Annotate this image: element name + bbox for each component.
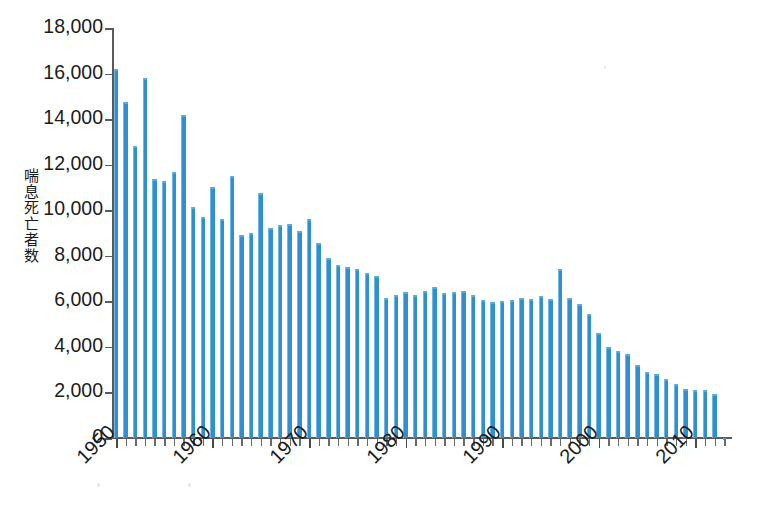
x-tick-mark-major [309, 439, 311, 448]
x-tick-mark-minor [338, 439, 339, 446]
x-tick-mark-minor [154, 439, 155, 446]
bar-cap [317, 243, 320, 245]
scan-artifact [604, 66, 606, 69]
bar [268, 228, 272, 438]
x-tick-mark-major [502, 439, 504, 448]
bar-cap [530, 299, 533, 301]
x-tick-mark-minor [328, 439, 329, 446]
bar-cap [221, 219, 224, 221]
bar [654, 374, 658, 438]
x-tick-mark-minor [135, 439, 136, 446]
bar [384, 298, 388, 438]
bar-cap [115, 69, 118, 71]
y-tick-mark [105, 74, 112, 76]
bar-cap [646, 372, 649, 374]
bar [703, 390, 707, 438]
bar-cap [231, 176, 234, 178]
bar-cap [540, 296, 543, 298]
x-tick-mark-minor [618, 439, 619, 446]
bar-cap [259, 193, 262, 195]
y-tick-label: 12,000 [43, 152, 103, 175]
bar-cap [375, 276, 378, 278]
bar [345, 267, 349, 438]
bar-cap [511, 300, 514, 302]
bar-cap [366, 273, 369, 275]
bar [481, 300, 485, 438]
bar [133, 146, 137, 438]
x-tick-mark-minor [715, 439, 716, 446]
x-tick-mark-minor [222, 439, 223, 446]
bar [567, 298, 571, 438]
bar-cap [626, 354, 629, 356]
bar [587, 314, 591, 438]
bar [645, 372, 649, 438]
scan-artifact [97, 483, 100, 487]
bar [635, 365, 639, 438]
x-tick-mark-minor [521, 439, 522, 446]
bar [374, 276, 378, 438]
x-tick-mark-minor [232, 439, 233, 446]
x-tick-mark-minor [637, 439, 638, 446]
bar-cap [713, 394, 716, 396]
x-tick-mark-minor [512, 439, 513, 446]
bar-cap [337, 265, 340, 267]
bar-cap [288, 224, 291, 226]
x-tick-mark-minor [425, 439, 426, 446]
bar [548, 299, 552, 438]
bar-cap [520, 298, 523, 300]
bar-cap [549, 299, 552, 301]
x-tick-mark-minor [541, 439, 542, 446]
bar [432, 287, 436, 438]
bar-cap [491, 302, 494, 304]
bar [172, 172, 176, 439]
bar-cap [568, 298, 571, 300]
bar [152, 179, 156, 438]
bar-cap [414, 295, 417, 297]
bar-cap [501, 301, 504, 303]
x-tick-mark-minor [435, 439, 436, 446]
bar-cap [453, 292, 456, 294]
bar [712, 394, 716, 438]
y-tick-label: 8,000 [54, 243, 103, 266]
bar [258, 193, 262, 438]
bar-cap [346, 267, 349, 269]
bar [596, 333, 600, 438]
x-tick-mark-minor [444, 439, 445, 446]
bar [577, 304, 581, 438]
bar-cap [472, 295, 475, 297]
x-tick-mark-minor [164, 439, 165, 446]
x-tick-mark-minor [145, 439, 146, 446]
x-tick-mark-minor [319, 439, 320, 446]
y-tick-mark [105, 256, 112, 258]
bar-cap [356, 269, 359, 271]
bar-cap [482, 300, 485, 302]
bar-cap [395, 295, 398, 297]
bar [510, 300, 514, 438]
bar [143, 78, 147, 438]
bar [316, 243, 320, 438]
bar [210, 187, 214, 438]
x-tick-mark-major [695, 439, 697, 448]
bar [355, 269, 359, 438]
bar [490, 302, 494, 438]
bar [191, 207, 195, 438]
y-tick-mark [105, 165, 112, 167]
bar-cap [655, 374, 658, 376]
bar-cap [298, 231, 301, 233]
y-tick-label: 2,000 [54, 379, 103, 402]
bar [326, 258, 330, 438]
bar-cap [404, 292, 407, 294]
bar [239, 235, 243, 438]
plot-area [112, 28, 730, 438]
bar-cap [607, 347, 610, 349]
bar [423, 291, 427, 438]
bar [162, 181, 166, 438]
bar [558, 269, 562, 438]
y-tick-label: 14,000 [43, 106, 103, 129]
y-tick-label: 6,000 [54, 288, 103, 311]
bar-cap [433, 287, 436, 289]
bar-cap [327, 258, 330, 260]
bar [461, 291, 465, 438]
y-tick-mark [105, 392, 112, 394]
x-tick-mark-minor [415, 439, 416, 446]
